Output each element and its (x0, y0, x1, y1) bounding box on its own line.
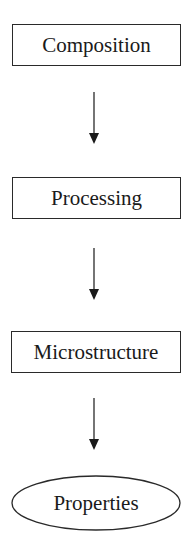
node-label: Properties (53, 491, 138, 516)
arrow-down-icon (88, 398, 100, 452)
node-properties: Properties (11, 475, 181, 531)
node-composition: Composition (12, 24, 181, 66)
node-label: Microstructure (34, 340, 159, 365)
arrow-down-icon (88, 248, 100, 302)
node-microstructure: Microstructure (11, 331, 181, 373)
node-label: Composition (42, 33, 151, 58)
node-label: Processing (51, 186, 142, 211)
arrow-down-icon (88, 92, 100, 146)
node-processing: Processing (12, 177, 181, 219)
